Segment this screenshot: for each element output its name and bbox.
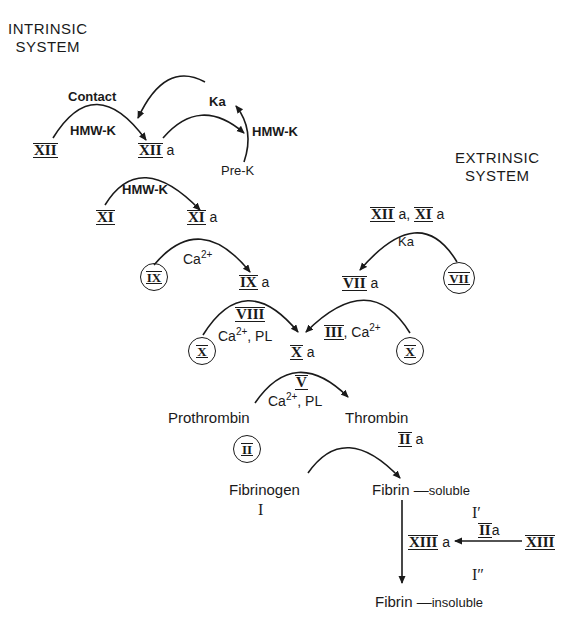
fibrin-text: Fibrin: [372, 481, 410, 498]
pre-k-label: Pre-K: [221, 164, 254, 177]
i-prime: I′: [472, 505, 481, 521]
roman-numeral: V: [295, 375, 308, 390]
insoluble-text: insoluble: [432, 595, 483, 610]
activated-suffix: a: [307, 344, 315, 360]
thrombin-label: Thrombin: [345, 410, 408, 425]
factor-x-left-circle: X: [188, 337, 216, 365]
fibrin-soluble-label: Fibrin —soluble: [372, 482, 470, 497]
factor-ix-circle: IX: [140, 263, 168, 291]
factor-xi: XI: [96, 210, 115, 225]
factor-ii-circle: II: [233, 435, 261, 463]
activated-suffix: a: [492, 522, 500, 538]
roman-numeral: III: [324, 325, 344, 340]
activated-suffix: a: [398, 206, 406, 222]
roman-numeral: XII: [33, 143, 58, 158]
roman-numeral: X: [404, 345, 415, 358]
activated-suffix: a: [416, 431, 424, 447]
roman-numeral: XII: [138, 143, 163, 158]
factor-viia: VII a: [342, 276, 378, 291]
roman-numeral: XII: [370, 207, 395, 222]
ca-charge: 2+: [236, 326, 247, 337]
roman-numeral: X: [196, 345, 207, 358]
activated-suffix: a: [262, 274, 270, 290]
ca-charge: 2+: [286, 391, 297, 402]
roman-numeral: II: [478, 523, 492, 538]
activated-suffix: a: [437, 206, 445, 222]
factor-xiia: XII a: [138, 143, 174, 158]
iia-label: IIa: [478, 523, 499, 538]
ca-charge: 2+: [369, 322, 380, 333]
factor-xiii: XIII: [525, 535, 555, 550]
factor-viii: VIII: [235, 307, 265, 322]
roman-numeral: II: [398, 432, 412, 447]
roman-numeral: XI: [187, 210, 206, 225]
factor-i: I: [258, 502, 263, 518]
header-line: EXTRINSIC: [455, 149, 540, 167]
intrinsic-system-header: INTRINSIC SYSTEM: [8, 20, 88, 56]
roman-numeral: VIII: [235, 307, 265, 322]
roman-numeral: VII: [448, 272, 470, 285]
ca-charge: 2+: [201, 249, 212, 260]
i-double-prime: I″: [472, 567, 484, 583]
extrinsic-system-header: EXTRINSIC SYSTEM: [455, 149, 540, 185]
activated-suffix: a: [442, 534, 450, 550]
roman-numeral: X: [290, 345, 303, 360]
fibrin-insoluble-label: Fibrin —insoluble: [375, 594, 483, 609]
factor-vii-circle: VII: [443, 262, 475, 294]
hmwk-label: HMW-K: [252, 125, 298, 138]
roman-numeral: XI: [96, 210, 115, 225]
factor-xia: XI a: [187, 210, 217, 225]
soluble-text: soluble: [429, 483, 470, 498]
ca-text: Ca: [351, 324, 369, 340]
activated-suffix: a: [210, 209, 218, 225]
factor-xa: X a: [290, 345, 315, 360]
roman-numeral: XIII: [408, 535, 438, 550]
prothrombin-label: Prothrombin: [168, 410, 250, 425]
activated-suffix: a: [166, 142, 174, 158]
factor-xii: XII: [33, 143, 58, 158]
hmwk-label: HMW-K: [70, 124, 116, 137]
factor-iia: II a: [398, 432, 423, 447]
ca-pl-label: Ca2+, PL: [218, 327, 272, 343]
roman-numeral: XI: [414, 207, 433, 222]
factor-x-right-circle: X: [396, 337, 424, 365]
ca-text: Ca: [183, 251, 201, 267]
header-line: SYSTEM: [455, 167, 540, 185]
roman-numeral: II: [241, 443, 253, 456]
roman-numeral: VII: [342, 276, 367, 291]
iii-ca-label: III, Ca2+: [324, 323, 381, 340]
pl-text: , PL: [247, 328, 272, 344]
ka-label: Ka: [398, 235, 414, 248]
ca-text: Ca: [218, 328, 236, 344]
header-line: SYSTEM: [8, 38, 88, 56]
ca-text: Ca: [268, 393, 286, 409]
factor-v: V: [295, 375, 308, 390]
fibrinogen-label: Fibrinogen: [229, 482, 300, 497]
ca-pl-label: Ca2+, PL: [268, 392, 322, 408]
roman-numeral: IX: [146, 271, 162, 284]
activated-suffix: a: [370, 275, 378, 291]
factor-ixa: IX a: [239, 275, 269, 290]
contact-label: Contact: [68, 90, 116, 103]
roman-numeral: IX: [239, 275, 258, 290]
extrinsic-cofactors: XII a, XI a: [370, 207, 444, 222]
roman-numeral: XIII: [525, 535, 555, 550]
factor-xiiia: XIII a: [408, 535, 450, 550]
hmwk-label: HMW-K: [122, 183, 168, 196]
ka-label: Ka: [209, 95, 226, 108]
pl-text: , PL: [297, 393, 322, 409]
header-line: INTRINSIC: [8, 20, 88, 38]
calcium-label: Ca2+: [183, 250, 212, 266]
fibrin-text: Fibrin: [375, 593, 413, 610]
